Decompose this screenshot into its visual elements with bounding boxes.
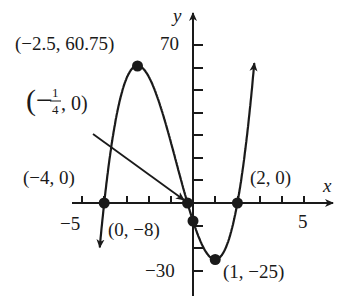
cubic-function-graph: (−2.5, 60.75) 70 y (− 1 4 , 0) (−4, 0) −… — [0, 0, 343, 299]
label-x-5: 5 — [298, 211, 308, 232]
label-neg-quarter-den: 4 — [52, 102, 59, 117]
label-y-70: 70 — [160, 33, 179, 54]
label-neg-quarter-open: (− — [26, 83, 53, 117]
label-x-neg5: −5 — [60, 213, 80, 234]
label-x-intercept-2: (2, 0) — [250, 167, 291, 189]
point-x-intercept-neg4 — [99, 198, 110, 209]
point-local-min — [210, 254, 221, 265]
label-neg-quarter-close: , 0) — [61, 92, 88, 115]
label-y-axis: y — [171, 5, 182, 26]
label-x-axis: x — [322, 175, 332, 196]
label-neg-quarter-num: 1 — [52, 85, 59, 100]
label-y-intercept: (0, −8) — [108, 219, 160, 241]
label-x-intercept-neg4: (−4, 0) — [23, 167, 75, 189]
point-x-intercept-2 — [232, 198, 243, 209]
label-y-neg30: −30 — [145, 260, 175, 281]
label-local-min: (1, −25) — [223, 261, 284, 283]
point-local-max — [132, 61, 143, 72]
point-y-intercept — [188, 216, 199, 227]
point-x-intercept-neg-quarter — [182, 198, 193, 209]
label-neg-quarter: (− 1 4 , 0) — [26, 83, 88, 117]
label-local-max: (−2.5, 60.75) — [15, 33, 114, 55]
